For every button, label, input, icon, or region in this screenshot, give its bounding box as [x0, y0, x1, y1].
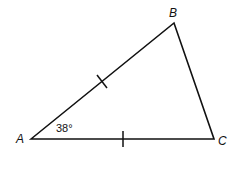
vertex-label-a: A	[15, 132, 24, 146]
vertex-label-b: B	[169, 6, 177, 20]
triangle-diagram: A B C 38°	[0, 0, 233, 171]
vertex-label-c: C	[218, 134, 227, 148]
tick-mark-ab	[97, 75, 107, 88]
angle-a-label: 38°	[56, 122, 73, 134]
